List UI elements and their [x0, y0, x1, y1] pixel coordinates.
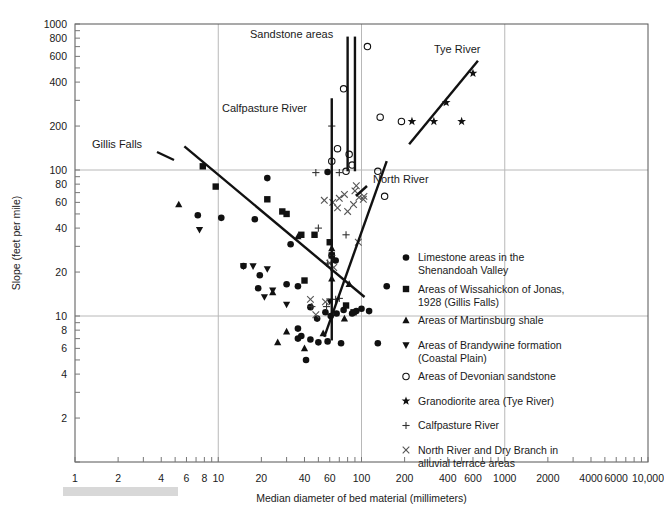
trend-line [184, 146, 364, 297]
data-point-circle-filled [195, 212, 202, 219]
data-point-triangle-up [301, 344, 308, 351]
data-point-circle-filled [295, 325, 302, 332]
figure-container: 1246810204060100200400600100020004000600… [0, 0, 664, 520]
x-tick-label: 400 [439, 472, 457, 484]
y-tick-label: 20 [55, 266, 67, 278]
legend-label: 1928 (Gillis Falls) [418, 296, 499, 308]
x-tick-label: 60 [324, 472, 336, 484]
data-point-circle-filled [295, 335, 302, 342]
legend-label: Areas of Wissahickon of Jonas, [418, 283, 564, 295]
x-tick-label: 8 [201, 472, 207, 484]
data-point-star [402, 396, 411, 404]
x-tick-label: 200 [396, 472, 414, 484]
data-point-circle-filled [255, 285, 262, 292]
y-tick-label: 400 [49, 76, 67, 88]
data-point-square [213, 183, 219, 189]
legend-label: (Coastal Plain) [418, 352, 487, 364]
data-point-circle-filled [324, 338, 331, 345]
data-point-triangle-up [402, 317, 409, 324]
y-axis-title: Slope (feet per mile) [10, 196, 22, 291]
data-point-circle-filled [303, 357, 310, 364]
y-tick-label: 80 [55, 178, 67, 190]
x-tick-label: 1 [72, 472, 78, 484]
legend-label: Granodiorite area (Tye River) [418, 395, 554, 407]
data-point-square [283, 211, 289, 217]
data-point-circle-open [340, 86, 346, 92]
data-point-circle-filled [283, 281, 290, 288]
y-tick-label: 1000 [44, 18, 68, 30]
data-point-square [311, 232, 317, 238]
data-point-circle-open [398, 118, 404, 124]
data-point-circle-filled [252, 216, 259, 223]
data-point-star [457, 117, 466, 125]
data-point-circle-open [381, 193, 387, 199]
data-point-triangle-down [261, 294, 268, 301]
data-point-triangle-up [283, 328, 290, 335]
legend-label: alluvial terrace areas [418, 457, 515, 469]
chart-annotation: Calfpasture River [222, 102, 307, 114]
data-point-circle-filled [264, 175, 271, 182]
y-tick-label: 800 [49, 32, 67, 44]
y-tick-label: 600 [49, 50, 67, 62]
y-tick-label: 8 [61, 324, 67, 336]
data-point-circle-open [364, 43, 370, 49]
y-tick-label: 60 [55, 196, 67, 208]
annotation-leader [157, 152, 174, 160]
y-tick-label: 2 [61, 412, 67, 424]
chart-annotation: North River [373, 173, 429, 185]
y-tick-label: 40 [55, 222, 67, 234]
data-point-circle-open [377, 114, 383, 120]
y-tick-label: 100 [49, 164, 67, 176]
x-tick-label: 1000 [493, 472, 517, 484]
legend-label: North River and Dry Branch in [418, 444, 558, 456]
data-point-circle-open [403, 373, 409, 379]
data-point-circle-filled [375, 340, 382, 347]
chart-annotation: Tye River [434, 43, 481, 55]
data-point-circle-open [334, 145, 340, 151]
trend-line [409, 61, 478, 145]
data-point-circle-filled [256, 272, 263, 279]
data-point-triangle-up [274, 338, 281, 345]
data-point-square [301, 277, 307, 283]
x-tick-label: 10 [212, 472, 224, 484]
x-tick-label: 2 [115, 472, 121, 484]
data-point-star [408, 117, 417, 125]
chart-annotation: Gillis Falls [92, 138, 143, 150]
data-point-triangle-down [264, 266, 271, 273]
legend-label: Calfpasture River [418, 419, 500, 431]
x-tick-label: 4 [158, 472, 164, 484]
data-point-circle-filled [338, 340, 345, 347]
data-point-circle-filled [315, 339, 322, 346]
legend-label: Areas of Martinsburg shale [418, 314, 544, 326]
data-point-triangle-up [175, 201, 182, 208]
data-point-square [343, 302, 349, 308]
data-point-square [350, 309, 356, 315]
y-tick-label: 4 [61, 368, 67, 380]
x-tick-label: 2000 [536, 472, 560, 484]
data-point-circle-filled [324, 169, 331, 176]
x-tick-label: 600 [464, 472, 482, 484]
data-point-circle-filled [383, 283, 390, 290]
data-point-triangle-down [196, 227, 203, 234]
x-tick-label: 20 [256, 472, 268, 484]
legend-label: Areas of Devonian sandstone [418, 370, 556, 382]
y-tick-label: 10 [55, 310, 67, 322]
data-point-square [264, 196, 270, 202]
data-point-circle-filled [295, 283, 302, 290]
x-tick-label: 100 [353, 472, 371, 484]
y-tick-label: 6 [61, 342, 67, 354]
legend-label: Limestone areas in the [418, 251, 524, 263]
data-point-triangle-down [269, 287, 276, 294]
x-tick-label: 6000 [605, 472, 629, 484]
data-point-circle-filled [403, 254, 410, 261]
data-point-square [403, 286, 409, 292]
data-point-triangle-down [283, 302, 290, 309]
y-tick-label: 200 [49, 120, 67, 132]
legend-label: Areas of Brandywine formation [418, 339, 562, 351]
chart-annotation: Sandstone areas [250, 28, 334, 40]
data-point-circle-filled [358, 306, 365, 313]
data-point-circle-filled [322, 309, 329, 316]
chart-svg: 1246810204060100200400600100020004000600… [0, 0, 664, 520]
data-point-triangle-down [249, 263, 256, 270]
legend-label: Shenandoah Valley [418, 264, 509, 276]
